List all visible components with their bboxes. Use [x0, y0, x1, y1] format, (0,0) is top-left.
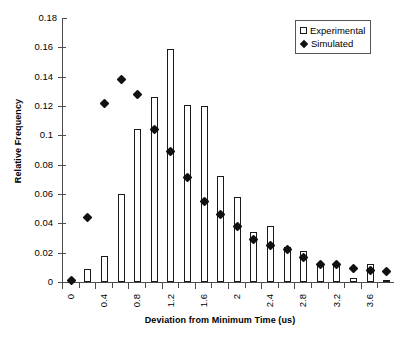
data-marker: [83, 213, 93, 223]
bar: [350, 278, 357, 282]
x-axis-title: Deviation from Minimum Time (us): [40, 315, 400, 325]
x-tick: [245, 282, 246, 288]
x-tick-label: 3.2: [332, 294, 342, 307]
x-tick: [294, 282, 295, 289]
legend-item-experimental: Experimental: [300, 24, 365, 37]
y-tick: 0.08: [58, 165, 66, 166]
y-tick-label: 0.1: [40, 130, 53, 140]
data-marker: [100, 98, 110, 108]
plot-area: 00.020.040.060.080.10.120.140.160.18 00.…: [62, 18, 394, 283]
x-tick: [261, 282, 262, 289]
relative-frequency-histogram: Relative Frequency 00.020.040.060.080.10…: [0, 0, 409, 337]
bar: [134, 129, 141, 282]
y-tick-label: 0: [48, 277, 53, 287]
x-tick: [112, 282, 113, 288]
x-tick-label: 1.6: [199, 294, 209, 307]
x-tick-label: 2.8: [298, 294, 308, 307]
x-tick: [328, 282, 329, 289]
legend-item-simulated: Simulated: [300, 37, 365, 50]
x-tick: [377, 282, 378, 288]
x-tick: [344, 282, 345, 288]
x-tick: [195, 282, 196, 289]
bar: [217, 176, 224, 282]
x-tick-label: 2: [232, 294, 242, 299]
chart-legend: Experimental Simulated: [295, 20, 371, 54]
x-tick: [95, 282, 96, 289]
bar: [101, 256, 108, 282]
y-tick-label: 0.14: [35, 72, 54, 82]
y-tick: 0.06: [58, 194, 66, 195]
y-tick: 0.1: [58, 135, 66, 136]
x-tick: [211, 282, 212, 288]
y-tick: 0.12: [58, 106, 66, 107]
bar: [118, 194, 125, 282]
legend-label-simulated: Simulated: [311, 39, 353, 49]
x-tick: [178, 282, 179, 288]
legend-bar-swatch-icon: [300, 27, 307, 34]
y-tick-label: 0.18: [39, 13, 58, 23]
y-tick-label: 0.08: [35, 160, 54, 170]
x-tick: [145, 282, 146, 288]
bar: [184, 105, 191, 282]
bar: [167, 49, 174, 282]
x-tick-label: 3.6: [365, 294, 375, 307]
y-tick-label: 0.04: [35, 218, 54, 228]
bar: [267, 226, 274, 282]
x-tick-label: 0: [66, 294, 76, 299]
y-axis-title: Relative Frequency: [13, 61, 23, 221]
data-marker: [133, 89, 143, 99]
data-marker: [349, 264, 359, 274]
legend-label-experimental: Experimental: [310, 26, 365, 36]
y-tick-label: 0.16: [35, 42, 54, 52]
legend-diamond-swatch-icon: [300, 39, 308, 47]
data-marker: [66, 276, 76, 286]
x-tick: [162, 282, 163, 289]
bar: [234, 197, 241, 282]
data-marker: [116, 75, 126, 85]
y-tick-label: 0.12: [35, 101, 54, 111]
y-tick: 0.18: [62, 18, 67, 19]
y-tick-label: 0.06: [35, 189, 54, 199]
y-tick: 0.02: [58, 253, 66, 254]
y-axis-line: [62, 18, 63, 283]
x-tick-label: 2.4: [265, 294, 275, 307]
data-marker: [382, 267, 392, 277]
bar: [383, 280, 390, 282]
x-tick: [278, 282, 279, 288]
x-tick: [361, 282, 362, 289]
y-tick: 0.04: [58, 223, 66, 224]
x-tick: [311, 282, 312, 288]
x-tick: [228, 282, 229, 289]
y-tick: 0.14: [58, 77, 66, 78]
y-tick: 0.16: [58, 47, 66, 48]
x-tick-label: 0.8: [132, 294, 142, 307]
bar: [84, 269, 91, 282]
x-tick: [62, 282, 63, 289]
x-tick-label: 0.4: [99, 294, 109, 307]
bar: [201, 106, 208, 282]
x-tick: [128, 282, 129, 289]
x-tick: [79, 282, 80, 288]
x-tick-label: 1.2: [166, 294, 176, 307]
y-tick-label: 0.02: [35, 248, 54, 258]
